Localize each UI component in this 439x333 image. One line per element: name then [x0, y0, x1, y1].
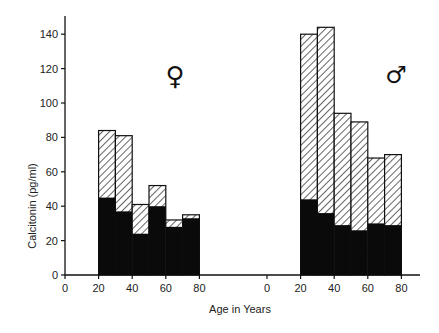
x-axis-label: Age in Years [209, 303, 271, 315]
y-tick-label: 40 [46, 200, 58, 212]
y-axis-label: Calcitonin (pg/ml) [26, 163, 38, 249]
bar-solid [385, 225, 402, 275]
x-tick-label: 0 [264, 282, 270, 294]
bar-solid [351, 230, 368, 275]
bar-solid [368, 223, 385, 275]
bar-solid [132, 234, 149, 275]
male-symbol: ♂ [385, 61, 407, 89]
bar-solid [301, 199, 318, 275]
bar-solid [115, 211, 132, 275]
bar-solid [183, 218, 200, 275]
bar-solid [317, 213, 334, 275]
x-tick-label: 60 [362, 282, 374, 294]
x-tick-label: 0 [62, 282, 68, 294]
x-tick-label: 20 [294, 282, 306, 294]
y-tick-label: 100 [40, 97, 58, 109]
bar-solid [149, 206, 166, 275]
bar-solid [99, 198, 116, 275]
y-tick-label: 80 [46, 131, 58, 143]
bars [99, 27, 402, 275]
y-tick-label: 120 [40, 63, 58, 75]
y-tick-label: 0 [52, 269, 58, 281]
y-tick-label: 140 [40, 28, 58, 40]
x-tick-label: 80 [193, 282, 205, 294]
x-tick-label: 80 [395, 282, 407, 294]
x-tick-label: 20 [92, 282, 104, 294]
bar-solid [166, 227, 183, 275]
x-tick-label: 40 [328, 282, 340, 294]
x-tick-label: 40 [126, 282, 138, 294]
y-tick-label: 60 [46, 166, 58, 178]
x-tick-label: 60 [160, 282, 172, 294]
bar-solid [334, 225, 351, 275]
y-tick-label: 20 [46, 235, 58, 247]
calcitonin-chart: 020406080100120140020406080020406080 Cal… [0, 0, 439, 333]
female-symbol: ♀ [165, 61, 184, 91]
